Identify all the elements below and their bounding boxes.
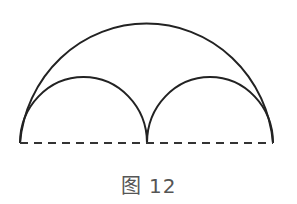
figure-caption: 图 12: [0, 170, 297, 199]
left-small-semicircle: [20, 77, 147, 143]
